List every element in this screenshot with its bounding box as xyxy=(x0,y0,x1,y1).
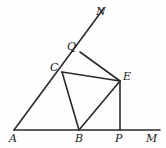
vertex-label-P: P xyxy=(115,133,122,144)
vertex-label-E: E xyxy=(123,71,131,82)
vertex-label-Q: Q xyxy=(67,41,76,52)
vertex-label-N: N xyxy=(96,6,106,17)
segment-CE-line xyxy=(62,72,120,81)
geometry-figure: A B P M C Q N E xyxy=(0,0,166,148)
geometry-canvas xyxy=(0,0,166,148)
segment-QE-line xyxy=(80,52,120,81)
segment-BE-line xyxy=(79,81,120,130)
vertex-label-M: M xyxy=(146,133,157,144)
vertex-label-B: B xyxy=(75,133,83,144)
segment-CB-line xyxy=(62,72,79,130)
vertex-label-A: A xyxy=(9,133,17,144)
vertex-label-C: C xyxy=(50,62,58,73)
ray-AN-line xyxy=(14,8,104,130)
